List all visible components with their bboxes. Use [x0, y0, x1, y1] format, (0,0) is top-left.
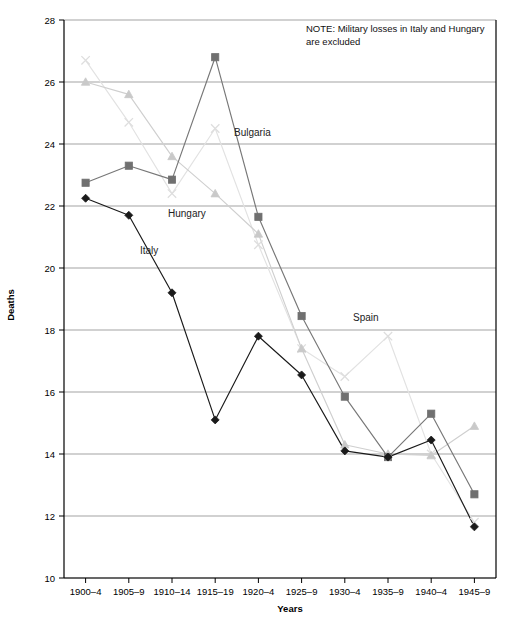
chart-container: 10121416182022242628 1900–41905–91910–14…	[0, 0, 512, 620]
x-tick-label: 1935–9	[372, 586, 404, 597]
chart-background	[0, 0, 512, 620]
y-tick-label: 28	[44, 15, 55, 26]
x-tick-label: 1915–19	[197, 586, 234, 597]
data-point-bulgaria	[212, 54, 219, 61]
x-tick-label: 1930–4	[329, 586, 361, 597]
note-line-1: NOTE: Military losses in Italy and Hunga…	[306, 23, 485, 34]
x-tick-label: 1900–4	[70, 586, 102, 597]
y-tick-label: 20	[44, 263, 55, 274]
data-point-bulgaria	[168, 176, 175, 183]
y-tick-label: 24	[44, 139, 55, 150]
y-tick-label: 12	[44, 511, 55, 522]
data-point-bulgaria	[428, 410, 435, 417]
data-point-bulgaria	[471, 491, 478, 498]
y-tick-label: 26	[44, 77, 55, 88]
x-tick-label: 1945–9	[459, 586, 491, 597]
data-point-bulgaria	[255, 213, 262, 220]
data-point-bulgaria	[125, 162, 132, 169]
x-tick-label: 1920–4	[243, 586, 275, 597]
y-axis-title: Deaths	[5, 289, 16, 321]
note-line-2: are excluded	[306, 36, 360, 47]
data-point-bulgaria	[298, 312, 305, 319]
y-tick-label: 10	[44, 573, 55, 584]
y-tick-label: 18	[44, 325, 55, 336]
x-axis-title: Years	[277, 603, 302, 614]
x-tick-label: 1910–14	[154, 586, 191, 597]
y-tick-label: 22	[44, 201, 55, 212]
y-tick-label: 16	[44, 387, 55, 398]
x-tick-label: 1925–9	[286, 586, 318, 597]
series-annotation-bulgaria: Bulgaria	[234, 127, 271, 138]
series-annotation-hungary: Hungary	[168, 208, 206, 219]
x-tick-label: 1940–4	[415, 586, 447, 597]
data-point-bulgaria	[82, 179, 89, 186]
series-annotation-italy: Italy	[140, 245, 158, 256]
data-point-bulgaria	[341, 393, 348, 400]
y-tick-label: 14	[44, 449, 55, 460]
x-tick-label: 1905–9	[113, 586, 145, 597]
series-annotation-spain: Spain	[353, 312, 379, 323]
line-chart: 10121416182022242628 1900–41905–91910–14…	[0, 0, 512, 620]
